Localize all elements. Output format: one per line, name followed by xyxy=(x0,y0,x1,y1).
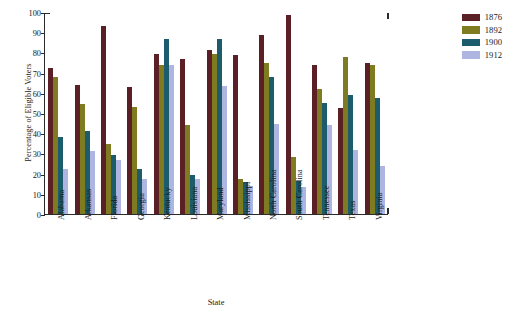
x-axis-tick: North Carolina xyxy=(256,218,282,294)
x-axis-tick: Louisiana xyxy=(176,218,202,294)
y-axis-tick-label: 40 xyxy=(7,130,45,139)
x-axis-tick: Florida xyxy=(97,218,123,294)
legend-label: 1912 xyxy=(485,50,502,60)
x-axis-tick-label: Alabama xyxy=(57,190,66,220)
y-axis-tick-label: 10 xyxy=(7,190,45,199)
y-axis-tick-label: 60 xyxy=(7,89,45,98)
x-axis-tick: Tennessee xyxy=(309,218,335,294)
x-axis-tick: Mississippi xyxy=(229,218,255,294)
bar-group xyxy=(335,13,361,214)
y-axis-tick-label: 30 xyxy=(7,150,45,159)
legend-swatch xyxy=(462,39,480,47)
x-axis-tick-label: North Carolina xyxy=(269,169,278,220)
legend-label: 1900 xyxy=(485,37,502,47)
plot-area: 0102030405060708090100 xyxy=(44,13,388,215)
x-axis-tick: Texas xyxy=(335,218,361,294)
chart-legend: 1876189219001912 xyxy=(462,11,502,61)
bar-chart: Percentage of Eligible Voters 0102030405… xyxy=(0,0,508,320)
x-axis-tick: South Carolina xyxy=(282,218,308,294)
y-axis-tick-label: 100 xyxy=(7,9,45,18)
bar-group xyxy=(124,13,150,214)
x-axis-tick-label: South Carolina xyxy=(295,169,304,220)
bar-group xyxy=(45,13,71,214)
x-axis-tick: Kentucky xyxy=(150,218,176,294)
y-axis-tick-label: 50 xyxy=(7,110,45,119)
x-axis-tick-label: Florida xyxy=(110,196,119,220)
legend-swatch xyxy=(462,26,480,34)
x-axis-tick: Alabama xyxy=(44,218,70,294)
x-axis-tick-label: Kentucky xyxy=(163,187,172,220)
x-axis-title: State xyxy=(44,298,388,307)
x-axis-tick-label: Georgia xyxy=(137,193,146,220)
legend-item: 1900 xyxy=(462,36,502,49)
bar-group xyxy=(71,13,97,214)
x-axis-tick-label: Texas xyxy=(348,201,357,220)
x-axis-tick: Maryland xyxy=(203,218,229,294)
bar-group xyxy=(362,13,388,214)
x-axis-tick-label: Tennessee xyxy=(322,186,331,220)
bar-group xyxy=(98,13,124,214)
y-axis-tick-label: 90 xyxy=(7,29,45,38)
legend-item: 1876 xyxy=(462,11,502,24)
x-axis-tick: Arkansas xyxy=(70,218,96,294)
bar-group xyxy=(309,13,335,214)
y-axis-tick-label: 70 xyxy=(7,69,45,78)
bar-group xyxy=(151,13,177,214)
x-axis-tick-label: Louisiana xyxy=(190,187,199,220)
x-axis-tick-label: Arkansas xyxy=(84,189,93,220)
bar-group xyxy=(177,13,203,214)
x-axis-tick: Virginia xyxy=(362,218,388,294)
legend-item: 1892 xyxy=(462,24,502,37)
legend-label: 1892 xyxy=(485,25,502,35)
legend-item: 1912 xyxy=(462,49,502,62)
x-axis-tick-label: Mississippi xyxy=(243,182,252,220)
legend-swatch xyxy=(462,14,480,22)
x-axis-tick-label: Maryland xyxy=(216,187,225,220)
x-axis-tick-label: Virginia xyxy=(375,193,384,220)
legend-label: 1876 xyxy=(485,12,502,22)
x-axis-tick-labels: AlabamaArkansasFloridaGeorgiaKentuckyLou… xyxy=(44,218,388,294)
y-axis-tick-label: 80 xyxy=(7,49,45,58)
legend-swatch xyxy=(462,51,480,59)
y-axis-tick-label: 20 xyxy=(7,170,45,179)
y-axis-tick-mark xyxy=(41,215,45,216)
y-axis-tick-label: 0 xyxy=(7,211,45,220)
x-axis-tick: Georgia xyxy=(123,218,149,294)
bar-group xyxy=(203,13,229,214)
bar-groups xyxy=(45,13,388,214)
